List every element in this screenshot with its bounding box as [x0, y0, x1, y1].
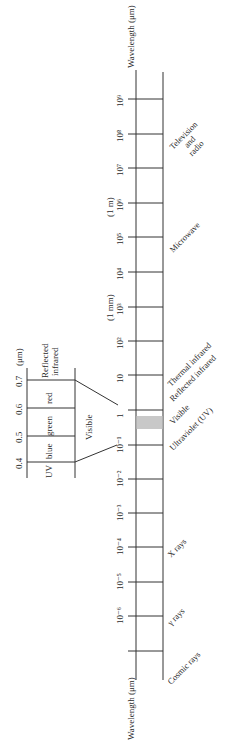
tick-label: 10⁻² — [115, 471, 125, 487]
tick-label: 10⁻⁴ — [115, 538, 125, 555]
inset-seg-green: green — [44, 416, 54, 436]
tick-label: 10³ — [115, 303, 125, 315]
inset-seg-infrared: infrared — [50, 348, 60, 376]
tick-label: 10⁵ — [115, 233, 125, 245]
tick-note: (1 mm) — [105, 294, 115, 321]
tick-label: 10⁸ — [115, 130, 125, 142]
inset-seg-uv: UV — [44, 465, 54, 478]
inset-seg-blue: blue — [44, 444, 54, 460]
inset-visible-detail — [27, 368, 118, 478]
inset-tick-0.4: 0.4 — [14, 458, 24, 469]
tick-label: 10⁹ — [115, 95, 125, 107]
tick-label: 10⁴ — [115, 268, 125, 280]
tick-label: 10⁶ — [115, 199, 125, 211]
tick-label: 10⁻¹ — [115, 437, 125, 453]
axis-label-top: Wavelength (μm) — [126, 5, 136, 68]
inset-tick-0.5: 0.5 — [14, 432, 24, 443]
tick-label: 10⁻³ — [115, 505, 125, 521]
inset-seg-reflected: Reflected — [40, 344, 50, 378]
axis-label-bottom: Wavelength (μm) — [126, 677, 136, 740]
tick-label: 10 — [115, 374, 125, 383]
scale-ticks — [128, 99, 163, 651]
tick-label: 10⁻⁵ — [115, 573, 125, 590]
tick-label: 10⁻⁶ — [115, 607, 125, 624]
inset-tick-0.7: 0.7 — [14, 376, 24, 387]
visible-band-highlight — [137, 416, 163, 429]
inset-tick-0.6: 0.6 — [14, 404, 24, 415]
inset-visible-label: Visible — [84, 415, 94, 440]
tick-label: 10⁷ — [115, 164, 125, 176]
inset-unit: (μm) — [14, 348, 24, 366]
inset-seg-red: red — [44, 393, 54, 405]
tick-note: (1 m) — [105, 197, 115, 217]
tick-label: 10² — [115, 337, 125, 349]
tick-label: 1 — [115, 414, 125, 419]
